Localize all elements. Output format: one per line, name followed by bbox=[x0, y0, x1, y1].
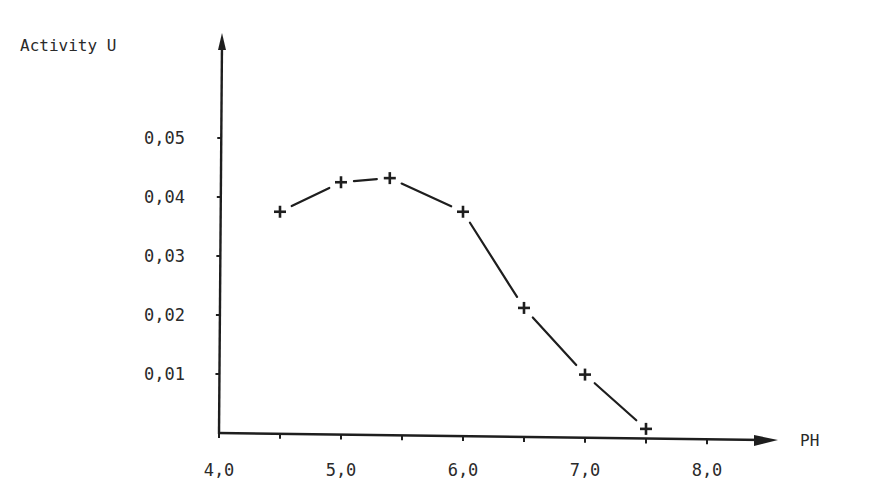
series-line-segment bbox=[533, 318, 576, 365]
data-point-plus-icon bbox=[579, 369, 591, 381]
x-axis-line bbox=[218, 433, 765, 440]
data-point-plus-icon bbox=[384, 172, 396, 184]
series-line-segment bbox=[402, 184, 452, 207]
x-tick-label: 7,0 bbox=[570, 460, 601, 480]
x-axis-arrowhead-icon bbox=[754, 435, 778, 446]
series-line-segment bbox=[470, 223, 517, 297]
ph-activity-chart: 4,05,06,07,08,00,010,020,030,040,05 Acti… bbox=[0, 0, 870, 504]
y-axis-title: Activity U bbox=[20, 36, 116, 55]
y-tick-label: 0,02 bbox=[144, 305, 185, 325]
axis-ticks bbox=[215, 138, 707, 444]
y-tick-label: 0,03 bbox=[144, 246, 185, 266]
y-axis-line bbox=[219, 42, 222, 434]
y-tick-label: 0,01 bbox=[144, 364, 185, 384]
axes bbox=[218, 33, 778, 446]
data-point-plus-icon bbox=[640, 423, 652, 435]
series-line-segment bbox=[292, 188, 330, 206]
x-tick-label: 6,0 bbox=[448, 460, 479, 480]
x-tick-label: 8,0 bbox=[692, 460, 723, 480]
x-tick-label: 5,0 bbox=[326, 460, 357, 480]
data-series bbox=[274, 172, 652, 435]
x-tick-label: 4,0 bbox=[204, 460, 235, 480]
data-point-plus-icon bbox=[457, 206, 469, 218]
y-tick-label: 0,04 bbox=[144, 187, 185, 207]
y-axis-arrowhead-icon bbox=[218, 33, 226, 50]
data-point-plus-icon bbox=[274, 206, 286, 218]
data-point-plus-icon bbox=[335, 176, 347, 188]
y-tick-label: 0,05 bbox=[144, 128, 185, 148]
tick-labels: 4,05,06,07,08,00,010,020,030,040,05 bbox=[144, 128, 722, 480]
series-line-segment bbox=[595, 383, 637, 420]
x-axis-title: PH bbox=[800, 431, 819, 450]
series-line-segment bbox=[354, 179, 377, 181]
data-point-plus-icon bbox=[518, 302, 530, 314]
